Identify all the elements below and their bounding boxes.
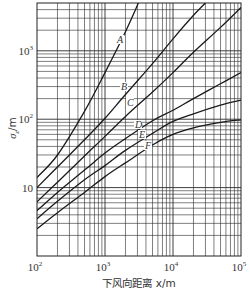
y-tick-label: 103: [19, 44, 34, 57]
x-axis-title: 下风向距离 x/m: [102, 277, 175, 289]
curve-label-e: E: [138, 129, 145, 140]
y-tick-label: 102: [19, 112, 34, 125]
curve-c: [37, 8, 241, 202]
curves: [37, 3, 241, 229]
curve-label-c: C: [127, 97, 134, 108]
curve-e: [37, 100, 241, 219]
sigma-z-chart: ABCDEF 102103104105 10102103 下风向距离 x/m σ…: [0, 0, 250, 297]
x-tick-label: 103: [96, 260, 111, 273]
curve-label-b: B: [121, 81, 127, 92]
x-tick-label: 102: [28, 260, 43, 273]
x-axis-ticks: 102103104105: [28, 260, 247, 273]
y-tick-label: 10: [22, 182, 34, 194]
y-axis-ticks: 10102103: [19, 44, 34, 194]
x-tick-label: 105: [232, 260, 247, 273]
curve-b: [37, 3, 205, 188]
curve-label-a: A: [116, 34, 124, 45]
curve-label-f: F: [144, 140, 152, 151]
x-tick-label: 104: [164, 260, 179, 273]
